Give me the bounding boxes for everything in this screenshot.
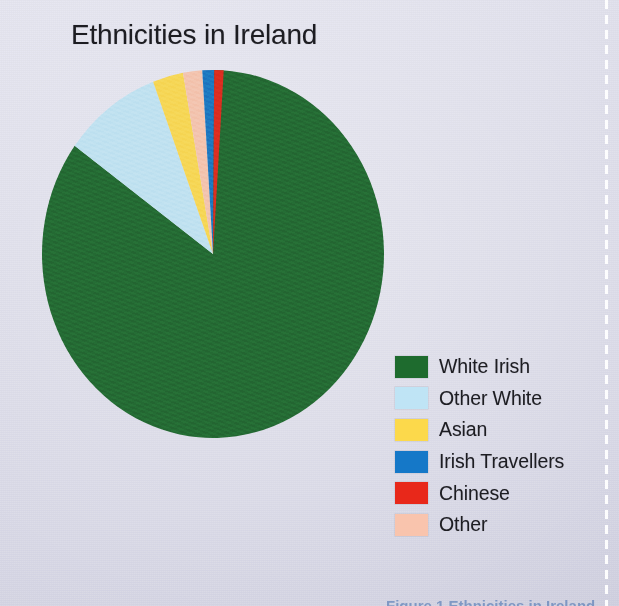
legend-swatch-icon bbox=[395, 419, 428, 441]
page-margin-dashed-rule bbox=[605, 0, 608, 606]
legend-item-label: Other White bbox=[439, 387, 542, 410]
legend-item: Other bbox=[395, 509, 600, 541]
chart-title: Ethnicities in Ireland bbox=[71, 19, 317, 51]
legend-swatch-icon bbox=[395, 514, 428, 536]
legend-item-label: White Irish bbox=[439, 355, 530, 378]
legend-swatch-icon bbox=[395, 387, 428, 409]
legend-item: White Irish bbox=[395, 351, 600, 383]
pie-slice-group bbox=[42, 70, 384, 438]
legend-item: Asian bbox=[395, 414, 600, 446]
legend-swatch-icon bbox=[395, 356, 428, 378]
pie-chart bbox=[40, 70, 386, 438]
legend-item: Irish Travellers bbox=[395, 446, 600, 478]
legend-item-label: Chinese bbox=[439, 482, 510, 505]
pie-chart-svg bbox=[40, 70, 386, 438]
chart-legend: White IrishOther WhiteAsianIrish Travell… bbox=[395, 351, 600, 541]
legend-item-label: Irish Travellers bbox=[439, 450, 564, 473]
legend-swatch-icon bbox=[395, 482, 428, 504]
figure-caption: Figure 1 Ethnicities in Ireland bbox=[386, 597, 595, 606]
legend-item: Other White bbox=[395, 383, 600, 415]
legend-swatch-icon bbox=[395, 451, 428, 473]
legend-item: Chinese bbox=[395, 477, 600, 509]
legend-item-label: Other bbox=[439, 513, 487, 536]
legend-item-label: Asian bbox=[439, 418, 487, 441]
